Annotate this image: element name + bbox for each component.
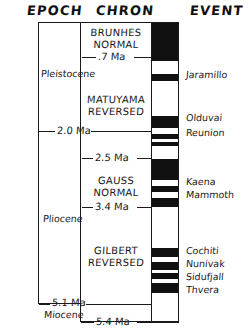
event-label-thvera: Thvera	[186, 284, 220, 295]
stripe-gauss-middle	[152, 186, 178, 192]
age-label-3-4ma: 3.4 Ma	[95, 201, 130, 212]
stripe-gauss-lower	[152, 198, 178, 207]
epoch-label-miocene: Miocene	[44, 309, 85, 320]
boundary-rule-5-1ma-right	[86, 304, 152, 305]
column-header-epoch: EPOCH	[26, 3, 83, 18]
boundary-rule-2-5ma-left	[82, 158, 93, 159]
boundary-rule-2-5ma-right	[137, 158, 151, 159]
event-label-reunion: Reunion	[186, 127, 226, 138]
column-header-event: EVENT	[189, 3, 244, 18]
chron-label-gilbert-line1: GILBERT	[82, 245, 151, 256]
stripe-brunhes-normal	[152, 23, 178, 61]
event-label-olduvai: Olduvai	[186, 112, 223, 123]
boundary-rule-5-4ma-right	[137, 322, 179, 323]
boundary-rule-5-4ma-left	[81, 322, 94, 323]
boundary-rule-2-0ma-left	[39, 131, 55, 132]
chron-label-gilbert-line2: REVERSED	[82, 257, 151, 268]
polarity-timescale-figure: EPOCH CHRON EVENT Pleistocene Pliocene M…	[0, 0, 249, 334]
event-label-mammoth: Mammoth	[186, 189, 235, 200]
stripe-jaramillo	[152, 74, 178, 81]
boundary-rule-3-4ma-right	[137, 207, 151, 208]
age-label-2-0ma: 2.0 Ma	[57, 125, 92, 136]
epoch-label-pleistocene: Pleistocene	[41, 68, 96, 79]
stripe-reunion-lower	[152, 142, 178, 146]
stripe-sidufjall	[152, 273, 178, 279]
event-label-nunivak: Nunivak	[186, 258, 226, 269]
chron-label-gauss-line1: GAUSS	[83, 175, 150, 186]
age-label-2-5ma: 2.5 Ma	[95, 152, 130, 163]
boundary-rule-5-1ma-left	[39, 304, 50, 305]
chron-label-matuyama-line1: MATUYAMA	[81, 94, 152, 105]
stripe-cochiti	[152, 248, 178, 257]
chron-label-gauss-line2: NORMAL	[83, 187, 150, 198]
polarity-stripe-bar	[151, 22, 179, 322]
stripe-reunion-upper	[152, 134, 178, 139]
age-label-5-4ma: 5.4 Ma	[96, 316, 131, 327]
event-label-kaena: Kaena	[186, 176, 217, 187]
chron-label-matuyama-line2: REVERSED	[81, 106, 152, 117]
chron-column-box	[80, 22, 152, 322]
epoch-column-box	[38, 22, 81, 304]
event-label-sidufjall: Sidufjall	[186, 271, 225, 282]
stripe-olduvai	[152, 116, 178, 128]
chron-label-brunhes-line2: NORMAL	[85, 39, 148, 50]
epoch-label-pliocene: Pliocene	[43, 213, 84, 224]
column-header-chron: CHRON	[95, 3, 155, 18]
event-label-cochiti: Cochiti	[186, 245, 220, 256]
boundary-rule-2-0ma-right	[91, 131, 152, 132]
stripe-gauss-upper	[152, 159, 178, 180]
stripe-thvera	[152, 283, 178, 293]
boundary-rule-0-7ma-right	[134, 57, 151, 58]
age-label-0-7ma: .7 Ma	[98, 51, 126, 62]
boundary-rule-3-4ma-left	[82, 207, 93, 208]
age-label-5-1ma: 5.1 Ma	[52, 297, 87, 308]
stripe-nunivak	[152, 262, 178, 270]
boundary-rule-0-7ma-left	[82, 57, 96, 58]
event-label-jaramillo: Jaramillo	[186, 69, 228, 80]
chron-label-brunhes-line1: BRUNHES	[85, 27, 148, 38]
